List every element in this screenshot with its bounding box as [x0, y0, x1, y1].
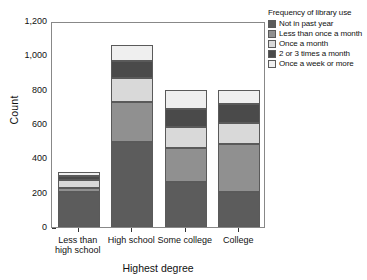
bar-segment: [111, 45, 153, 61]
bar-segment: [111, 61, 153, 77]
legend-item: Once a month: [268, 39, 367, 48]
legend-swatch-icon: [268, 30, 276, 38]
legend-items: Not in past yearLess than once a monthOn…: [268, 19, 367, 68]
legend-item: Once a week or more: [268, 59, 367, 68]
bar-segment: [165, 127, 207, 148]
y-tick-label: 1,000: [7, 51, 47, 60]
bar-segment: [58, 172, 100, 176]
legend-swatch-icon: [268, 60, 276, 68]
bar-segment: [111, 78, 153, 102]
x-tick-mark: [131, 228, 132, 232]
bar-segment: [165, 109, 207, 128]
legend-item: Less than once a month: [268, 29, 367, 38]
library-use-by-degree-chart: Count 02004006008001,0001,200 Less thanh…: [0, 0, 367, 280]
legend-item-label: Once a week or more: [279, 59, 354, 68]
legend-item: 2 or 3 times a month: [268, 49, 367, 58]
y-tick-label: 0: [7, 223, 47, 232]
x-tick-label-line: high school: [38, 245, 118, 255]
bar-segment: [111, 142, 153, 227]
legend-swatch-icon: [268, 40, 276, 48]
bar-segment: [218, 123, 260, 144]
x-tick-mark: [185, 228, 186, 232]
bar-segment: [58, 176, 100, 179]
bar-segment: [165, 90, 207, 109]
bar-segment: [218, 144, 260, 192]
bar-segment: [165, 182, 207, 227]
y-tick-mark: [52, 228, 56, 229]
legend: Frequency of library use Not in past yea…: [268, 8, 367, 69]
legend-item-label: Less than once a month: [279, 29, 362, 38]
bar-segment: [58, 192, 100, 227]
x-axis-title: Highest degree: [51, 262, 265, 274]
plot-area: [51, 22, 265, 228]
legend-swatch-icon: [268, 20, 276, 28]
legend-item-label: Not in past year: [279, 19, 333, 28]
y-tick-label: 200: [7, 189, 47, 198]
bar-segment: [58, 180, 100, 188]
y-tick-label: 400: [7, 154, 47, 163]
legend-item-label: Once a month: [279, 39, 328, 48]
bar-segment: [218, 90, 260, 105]
legend-item-label: 2 or 3 times a month: [279, 49, 350, 58]
x-tick-mark: [78, 228, 79, 232]
legend-swatch-icon: [268, 50, 276, 58]
bars-container: [52, 23, 264, 227]
bar-segment: [165, 148, 207, 181]
bar-segment: [58, 188, 100, 192]
y-tick-label: 1,200: [7, 17, 47, 26]
x-tick-mark: [238, 228, 239, 232]
legend-title: Frequency of library use: [268, 8, 367, 17]
x-tick-label: College: [198, 235, 278, 245]
y-tick-label: 600: [7, 120, 47, 129]
y-tick-label: 800: [7, 86, 47, 95]
bar-segment: [218, 192, 260, 227]
bar-segment: [111, 102, 153, 142]
bar-segment: [218, 104, 260, 123]
x-tick-label-line: College: [198, 235, 278, 245]
legend-item: Not in past year: [268, 19, 367, 28]
